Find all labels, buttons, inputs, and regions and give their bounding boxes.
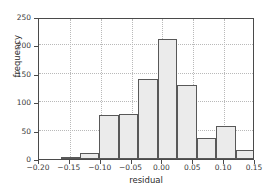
x-tick-label: 0.05 [184, 164, 201, 172]
histogram-bar [61, 157, 80, 159]
x-axis-title: residual [38, 176, 254, 185]
x-tick-label: 0.00 [153, 164, 170, 172]
histogram-bar [177, 85, 196, 159]
y-tick-mark [34, 75, 38, 76]
x-tick-label: −0.10 [88, 164, 111, 172]
histogram-bar [216, 126, 235, 160]
y-tick-mark [34, 132, 38, 133]
x-tick-label: 0.10 [215, 164, 232, 172]
histogram-bar [158, 39, 177, 159]
plot-area [38, 18, 254, 160]
x-tick-label: −0.20 [27, 164, 50, 172]
x-tick-label: 0.15 [246, 164, 263, 172]
y-tick-label: 100 [17, 99, 31, 107]
histogram-bars [39, 19, 253, 159]
histogram-bar [138, 79, 157, 159]
histogram-bar [197, 138, 216, 159]
y-tick-mark [34, 103, 38, 104]
histogram-bar [119, 114, 138, 159]
histogram-figure: 050100150200250 −0.20−0.15−0.10−0.050.00… [0, 0, 279, 192]
y-tick-mark [34, 46, 38, 47]
histogram-bar [236, 150, 253, 159]
x-tick-label: −0.05 [119, 164, 142, 172]
x-tick-label: −0.15 [57, 164, 80, 172]
y-tick-label: 50 [21, 128, 31, 136]
histogram-bar [99, 115, 118, 159]
histogram-bar [80, 153, 99, 159]
y-axis-title: frequency [13, 19, 22, 93]
y-tick-mark [34, 18, 38, 19]
